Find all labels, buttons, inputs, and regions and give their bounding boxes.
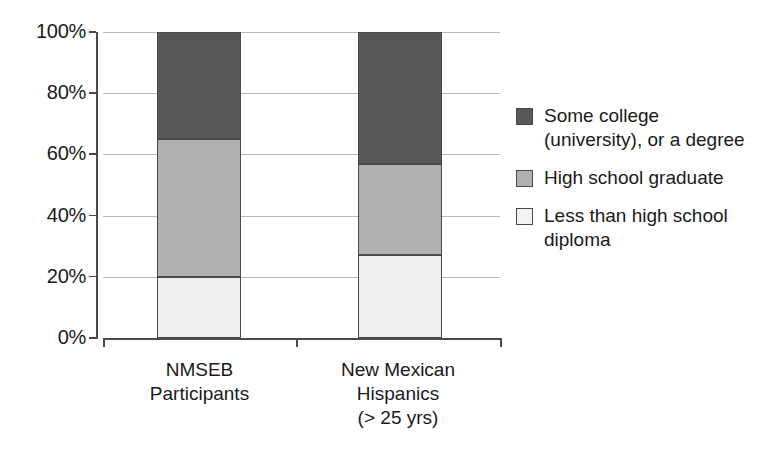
bar-segment-some-college[interactable] xyxy=(157,32,241,139)
y-axis-tick-label: 20% xyxy=(0,266,86,286)
x-axis-tick xyxy=(103,338,105,347)
y-axis-tick xyxy=(89,31,96,33)
y-axis-tick-label: 80% xyxy=(0,82,86,102)
y-axis-tick xyxy=(89,276,96,278)
legend-swatch-icon xyxy=(516,108,533,125)
x-axis-tick xyxy=(296,338,298,347)
stacked-bar-chart: 100%80%60%40%20%0% NMSEB ParticipantsNew… xyxy=(0,0,784,453)
y-axis-tick xyxy=(89,153,96,155)
legend-item[interactable]: Some college (university), or a degree xyxy=(516,104,778,152)
legend-swatch-icon xyxy=(516,208,533,225)
legend-item[interactable]: Less than high school diploma xyxy=(516,204,778,252)
x-axis-tick xyxy=(500,338,502,347)
bar-2[interactable] xyxy=(358,32,442,338)
y-axis-tick-label: 100% xyxy=(0,21,86,41)
legend-swatch-icon xyxy=(516,170,533,187)
bar-1[interactable] xyxy=(157,32,241,338)
y-axis-tick xyxy=(89,337,96,339)
bar-segment-hs-graduate[interactable] xyxy=(157,139,241,277)
y-axis-line xyxy=(96,32,98,339)
x-axis-baseline xyxy=(103,338,500,340)
x-axis-category-label: NMSEB Participants xyxy=(103,358,296,406)
y-axis-tick-label: 60% xyxy=(0,143,86,163)
legend-item[interactable]: High school graduate xyxy=(516,166,778,190)
y-axis-tick xyxy=(89,215,96,217)
plot-area xyxy=(103,32,500,338)
bar-segment-less-than-hs[interactable] xyxy=(358,255,442,338)
legend-item-label: Less than high school diploma xyxy=(544,204,728,252)
bar-segment-some-college[interactable] xyxy=(358,32,442,164)
y-axis-tick-label: 40% xyxy=(0,205,86,225)
legend-item-label: High school graduate xyxy=(544,166,724,190)
y-axis-tick xyxy=(89,92,96,94)
y-axis-tick-label: 0% xyxy=(0,327,86,347)
x-axis-category-label: New Mexican Hispanics (> 25 yrs) xyxy=(296,358,500,430)
bar-segment-less-than-hs[interactable] xyxy=(157,277,241,338)
chart-legend: Some college (university), or a degreeHi… xyxy=(516,104,778,266)
legend-item-label: Some college (university), or a degree xyxy=(544,104,745,152)
bar-segment-hs-graduate[interactable] xyxy=(358,164,442,256)
